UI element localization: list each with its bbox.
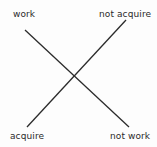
label-not-work: not work (110, 131, 150, 141)
label-not-acquire: not acquire (99, 9, 151, 19)
crossed-lines-diagram: work not acquire acquire not work (0, 0, 157, 147)
diagram-lines (0, 0, 157, 147)
label-work: work (13, 9, 35, 19)
label-acquire: acquire (10, 131, 44, 141)
